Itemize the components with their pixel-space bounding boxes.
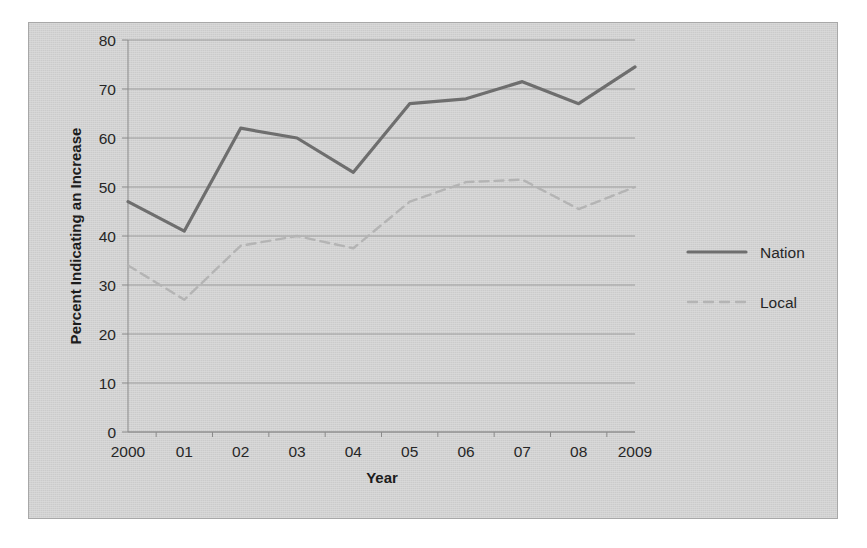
x-tick-label: 02 [232, 443, 249, 460]
y-tick-label: 60 [99, 130, 117, 147]
y-tick-label: 40 [99, 228, 117, 245]
y-tick-label: 70 [99, 81, 117, 98]
x-tick-label: 05 [401, 443, 418, 460]
x-tick-label: 2000 [111, 443, 146, 460]
x-tick-label: 06 [457, 443, 474, 460]
series-line-nation [128, 67, 635, 231]
x-axis-ticks [156, 432, 607, 437]
x-tick-label: 07 [514, 443, 531, 460]
y-tick-label: 50 [99, 179, 117, 196]
x-tick-label: 04 [345, 443, 363, 460]
x-axis-title: Year [366, 469, 398, 486]
data-series-layer [128, 67, 635, 300]
x-axis-tick-labels: 200001020304050607082009 [111, 443, 652, 460]
x-tick-label: 08 [570, 443, 587, 460]
legend-label-local: Local [760, 294, 797, 311]
chart-figure: 01020304050607080 2000010203040506070820… [0, 0, 867, 548]
x-tick-label: 03 [288, 443, 305, 460]
y-tick-label: 30 [99, 277, 117, 294]
legend-label-nation: Nation [760, 244, 805, 261]
y-tick-label: 80 [99, 32, 117, 49]
y-gridlines [128, 40, 635, 432]
y-tick-label: 0 [107, 424, 116, 441]
y-axis-title: Percent Indicating an Increase [67, 128, 84, 345]
x-tick-label: 01 [176, 443, 193, 460]
line-chart-plot: 01020304050607080 2000010203040506070820… [0, 0, 867, 548]
y-tick-label: 20 [99, 326, 117, 343]
chart-legend: NationLocal [688, 244, 805, 311]
y-axis-tick-labels: 01020304050607080 [99, 32, 117, 441]
x-tick-label: 2009 [618, 443, 652, 460]
y-tick-label: 10 [99, 375, 117, 392]
